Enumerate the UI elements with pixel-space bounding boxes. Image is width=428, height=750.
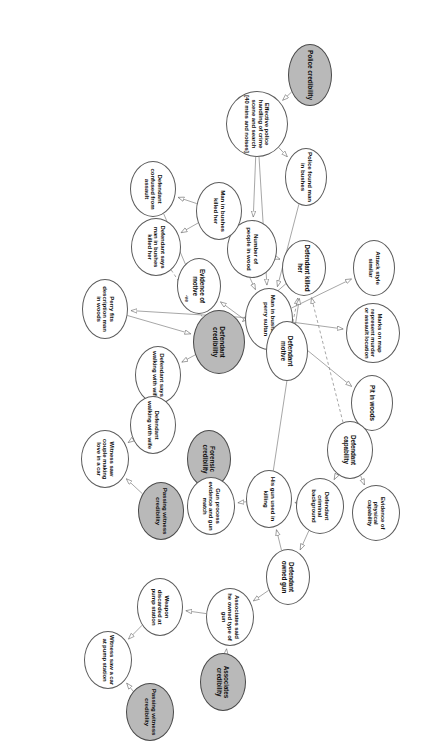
edge-eff_police-to-num_people	[253, 157, 255, 217]
edge-def_crim_bg-to-def_owned_gun	[300, 531, 309, 550]
node-label: Marks on map represent murder or assault…	[363, 307, 383, 359]
edge-assoc_said-to-weapon_discarded	[186, 611, 206, 614]
edge-passing_cred_1-to-witness_couple	[126, 479, 142, 494]
node-label: Police found man in bushes	[299, 152, 313, 202]
node-label: Passing witness credibility	[143, 687, 157, 737]
edge-eff_police-to-police_found	[279, 148, 287, 157]
node-label: Defendant walking with wife	[146, 400, 160, 450]
edge-weapon_discarded-to-witness_car_pump	[129, 625, 143, 639]
node-label: Defendant capability	[343, 425, 357, 475]
edge-police_cred-to-eff_police	[283, 92, 292, 100]
node-gun_process[interactable]: Gun process evidence and gun match	[187, 477, 235, 535]
node-def_crim_bg[interactable]: Defendant criminal background	[296, 478, 344, 534]
node-label: Witness saw couple making love in a car	[95, 434, 115, 484]
edge-def_owned_gun-to-his_gun_used	[277, 530, 282, 550]
node-def_says_walking[interactable]: Defendant says walking with wife	[135, 346, 181, 404]
node-police_found[interactable]: Police found man in bushes	[285, 148, 327, 206]
edge-his_gun_used-to-gun_process	[238, 502, 246, 503]
edge-def_capability-to-def_crim_bg	[334, 474, 337, 479]
node-label: Gun process evidence and gun match	[201, 481, 221, 531]
node-eff_police[interactable]: Effective police handling of crime scene…	[226, 91, 288, 157]
edge-label: -ve	[184, 295, 190, 302]
node-label: Defendant says man in bushes killed her	[146, 222, 166, 272]
node-his_gun_used[interactable]: His gun used in killing	[246, 470, 292, 528]
node-label: Associates said he owned type of gun	[220, 592, 240, 642]
node-man_bushes_killed[interactable]: Man in bushes killed her	[196, 182, 242, 240]
node-label: Man in bushes killed her	[212, 186, 226, 236]
node-label: Police credibility	[306, 48, 313, 102]
node-label: Defendant killed her	[297, 244, 311, 292]
node-assoc_cred[interactable]: Associates credibility	[200, 653, 246, 711]
node-assoc_said[interactable]: Associates said he owned type of gun	[206, 588, 254, 646]
node-witness_car_pump[interactable]: Witness saw a car at pump station	[84, 631, 132, 689]
node-label: His gun used in killing	[262, 474, 276, 524]
node-attack_style[interactable]: Attack style similar	[353, 240, 395, 296]
node-evidence_phys[interactable]: Evidence of physical capability	[352, 485, 400, 541]
node-label: Evidence of motive	[192, 262, 206, 310]
edge-man_bushes_killed-to-def_confused	[178, 197, 197, 203]
node-witness_couple[interactable]: Witness saw couple making love in a car	[81, 430, 129, 488]
edge-man_bushes_killed-to-def_says_man	[181, 223, 198, 233]
node-marks_map[interactable]: Marks on map represent murder or assault…	[346, 303, 400, 363]
node-label: Defendant criminal background	[310, 482, 330, 530]
node-def_says_man[interactable]: Defendant says man in bushes killed her	[131, 218, 181, 276]
diagram-rotation-wrapper: Police credibilityEffective police handl…	[0, 0, 428, 750]
node-passing_cred_1[interactable]: Passing witness credibility	[138, 482, 184, 540]
node-label: Evidence of physical capability	[366, 489, 386, 537]
node-label: Defendant credibility	[212, 314, 227, 370]
node-def_owned_gun[interactable]: Defendant owned gun	[266, 549, 310, 605]
node-label: Witness saw a car at pump station	[101, 635, 114, 685]
node-label: Weapon discarded at pump station	[150, 582, 170, 632]
edge-def_capability-to-def_killed	[312, 298, 343, 423]
node-def_killed[interactable]: Defendant killed her	[282, 240, 326, 296]
node-label: Number of people in wood	[245, 224, 259, 274]
node-label: Defendant confused from assault	[143, 165, 163, 213]
diagram-canvas: Police credibilityEffective police handl…	[0, 0, 428, 750]
node-label: Effective police handling of crime scene…	[244, 95, 271, 153]
node-label: Attack style similar	[367, 244, 381, 292]
node-perry_fits[interactable]: Perry fits description man in woods	[82, 279, 128, 339]
edge-def_motive-to-def_killed	[293, 298, 298, 322]
edge-def_capability-to-evidence_phys	[361, 476, 365, 485]
node-label: Defendant says walking with wife	[151, 350, 165, 400]
node-label: Pit in woods	[368, 379, 375, 427]
edge-perry_fits-to-def_cred	[127, 316, 190, 334]
node-weapon_discarded[interactable]: Weapon discarded at pump station	[137, 578, 183, 636]
node-label: Defendant motive	[280, 325, 294, 377]
node-label: Defendant owned gun	[281, 553, 295, 601]
node-def_cred[interactable]: Defendant credibility	[193, 310, 245, 374]
node-label: Passing witness credibility	[154, 486, 168, 536]
node-evidence_motive[interactable]: Evidence of motive	[177, 258, 221, 314]
node-label: Perry fits description man in woods	[95, 283, 115, 335]
node-def_walking[interactable]: Defendant walking with wife	[130, 396, 176, 454]
edge-def_cred-to-def_says_walking	[182, 355, 195, 362]
node-def_confused[interactable]: Defendant confused from assault	[130, 161, 176, 217]
node-def_capability[interactable]: Defendant capability	[327, 421, 373, 479]
node-police_cred[interactable]: Police credibility	[288, 44, 332, 106]
edge-passing_cred_2-to-witness_car_pump	[127, 683, 133, 691]
edge-def_owned_gun-to-assoc_said	[254, 590, 269, 600]
node-def_motive[interactable]: Defendant motive	[266, 321, 308, 381]
edge-num_people-to-def_killed	[276, 258, 280, 259]
node-passing_cred_2[interactable]: Passing witness credibility	[126, 683, 174, 741]
node-label: Associates credibility	[216, 657, 230, 707]
